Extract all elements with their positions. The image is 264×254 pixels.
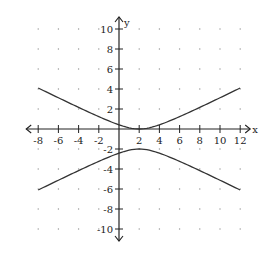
x-tick-label: -2 bbox=[94, 135, 104, 146]
grid-dot bbox=[159, 148, 160, 149]
grid-dot bbox=[78, 148, 79, 149]
grid-dot bbox=[78, 68, 79, 69]
grid-dot bbox=[139, 108, 140, 109]
grid-dot bbox=[98, 148, 99, 149]
grid-dot bbox=[159, 208, 160, 209]
y-tick-label: -4 bbox=[103, 164, 113, 175]
x-tick-label: 8 bbox=[197, 135, 203, 146]
grid-dot bbox=[240, 168, 241, 169]
x-tick-labels: -8-6-4-224681012 bbox=[33, 135, 246, 146]
grid-dot bbox=[38, 208, 39, 209]
grid-dot bbox=[139, 208, 140, 209]
x-tick-label: 2 bbox=[136, 135, 142, 146]
grid-dot bbox=[38, 108, 39, 109]
grid-dot bbox=[219, 208, 220, 209]
grid-dot bbox=[240, 228, 241, 229]
grid-dot bbox=[38, 48, 39, 49]
grid-dot bbox=[199, 168, 200, 169]
grid-dot bbox=[179, 68, 180, 69]
grid-dot bbox=[58, 28, 59, 29]
grid-dot bbox=[98, 188, 99, 189]
grid-dot bbox=[179, 188, 180, 189]
y-tick-label: -8 bbox=[103, 204, 113, 215]
grid-dot bbox=[139, 188, 140, 189]
x-tick-label: 6 bbox=[176, 135, 182, 146]
grid-dot bbox=[58, 48, 59, 49]
grid-dot bbox=[179, 48, 180, 49]
grid-dot bbox=[38, 148, 39, 149]
grid-dot bbox=[219, 148, 220, 149]
grid-dot bbox=[199, 48, 200, 49]
grid-dot bbox=[179, 168, 180, 169]
grid-dot bbox=[159, 228, 160, 229]
grid-dot bbox=[98, 208, 99, 209]
grid-dot bbox=[38, 68, 39, 69]
grid-dot bbox=[139, 88, 140, 89]
hyperbola-graph: -8-6-4-224681012 108642-2-4-6-8-10 x y bbox=[0, 0, 264, 254]
grid-dot bbox=[159, 168, 160, 169]
y-tick-label: -10 bbox=[97, 224, 113, 235]
grid-dot bbox=[240, 208, 241, 209]
x-tick-label: -6 bbox=[54, 135, 64, 146]
x-tick-label: -4 bbox=[74, 135, 84, 146]
x-axis-label: x bbox=[252, 124, 258, 135]
grid-dot bbox=[240, 28, 241, 29]
grid-dot bbox=[58, 208, 59, 209]
grid-dot bbox=[58, 168, 59, 169]
grid-dot bbox=[78, 88, 79, 89]
y-tick-label: 6 bbox=[107, 64, 113, 75]
grid-dot bbox=[179, 228, 180, 229]
grid-dot bbox=[240, 108, 241, 109]
grid-dot bbox=[199, 88, 200, 89]
grid-dot bbox=[219, 88, 220, 89]
grid-dot bbox=[199, 208, 200, 209]
grid-dot bbox=[38, 28, 39, 29]
grid-dot bbox=[219, 48, 220, 49]
grid-dot bbox=[78, 208, 79, 209]
y-tick-label: 4 bbox=[107, 84, 113, 95]
grid-dot bbox=[98, 48, 99, 49]
grid-dot bbox=[199, 188, 200, 189]
grid-dot bbox=[219, 68, 220, 69]
grid-dot bbox=[139, 28, 140, 29]
grid-dot bbox=[199, 28, 200, 29]
grid-dot bbox=[38, 168, 39, 169]
y-tick-label: 2 bbox=[107, 104, 113, 115]
grid-dot bbox=[240, 148, 241, 149]
grid-dot bbox=[78, 108, 79, 109]
grid-dot bbox=[98, 168, 99, 169]
grid-dot bbox=[78, 28, 79, 29]
grid-dot bbox=[58, 228, 59, 229]
grid-dot bbox=[179, 88, 180, 89]
grid-dot bbox=[78, 188, 79, 189]
grid-dot bbox=[78, 48, 79, 49]
grid-dot bbox=[199, 68, 200, 69]
grid-dot bbox=[199, 228, 200, 229]
grid-dot bbox=[139, 228, 140, 229]
grid-dot bbox=[179, 28, 180, 29]
grid-dot bbox=[159, 28, 160, 29]
grid-dot bbox=[199, 108, 200, 109]
x-tick-label: 10 bbox=[214, 135, 227, 146]
grid-dot bbox=[78, 228, 79, 229]
grid-dot bbox=[219, 28, 220, 29]
grid-dot bbox=[159, 68, 160, 69]
grid-dot bbox=[240, 48, 241, 49]
grid-dot bbox=[58, 68, 59, 69]
grid-dot bbox=[240, 68, 241, 69]
grid-dot bbox=[98, 108, 99, 109]
grid-dot bbox=[219, 168, 220, 169]
grid-dot bbox=[58, 88, 59, 89]
grid-dot bbox=[58, 148, 59, 149]
x-tick-label: 12 bbox=[234, 135, 247, 146]
grid-dot bbox=[98, 88, 99, 89]
grid-dot bbox=[139, 68, 140, 69]
grid-dot bbox=[199, 148, 200, 149]
grid-dot bbox=[179, 208, 180, 209]
grid-dot bbox=[98, 68, 99, 69]
grid-dot bbox=[58, 188, 59, 189]
grid-dot bbox=[219, 228, 220, 229]
x-tick-label: 4 bbox=[156, 135, 162, 146]
x-tick-label: -8 bbox=[33, 135, 43, 146]
grid-dot bbox=[78, 168, 79, 169]
